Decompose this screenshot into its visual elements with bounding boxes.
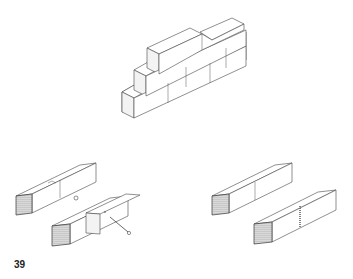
brick-wall-figure bbox=[122, 18, 246, 118]
illustration-canvas bbox=[0, 0, 353, 279]
bolted-joint-figure bbox=[16, 163, 140, 246]
butt-joint-figure bbox=[212, 163, 336, 244]
page-number: 39 bbox=[14, 259, 25, 270]
